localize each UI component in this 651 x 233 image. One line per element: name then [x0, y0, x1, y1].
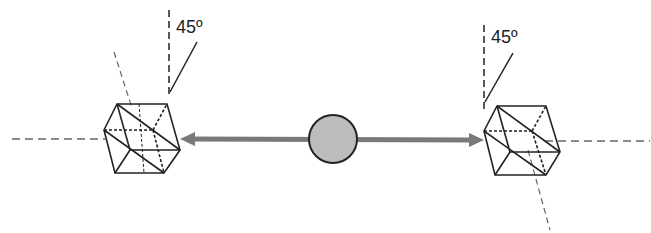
left-crystal-cube-icon	[104, 104, 180, 173]
center-sphere	[309, 115, 357, 163]
left-angle-label: 45º	[176, 17, 203, 37]
right-angle-label: 45º	[491, 27, 518, 47]
diagram-canvas: 45º 45º	[0, 0, 651, 233]
right-angle-marker	[484, 25, 550, 230]
